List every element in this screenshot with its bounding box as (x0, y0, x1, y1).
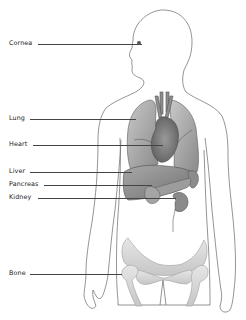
label-pancreas: Pancreas (9, 181, 39, 187)
leader-line-cornea (38, 44, 142, 45)
anatomy-diagram: Cornea Lung Heart Liver Pancreas Kidney … (0, 0, 246, 320)
body-illustration (0, 0, 246, 320)
leader-line-pancreas (44, 185, 152, 186)
leader-line-liver (30, 172, 132, 173)
kidney (173, 192, 188, 211)
label-cornea: Cornea (9, 40, 32, 46)
leader-line-lung (30, 119, 136, 120)
ureter (173, 210, 175, 232)
leader-line-bone (30, 274, 122, 275)
label-heart: Heart (9, 141, 27, 147)
label-bone: Bone (9, 270, 26, 276)
label-liver: Liver (9, 168, 25, 174)
eye-marker-icon (137, 41, 141, 45)
leader-line-kidney (38, 198, 176, 199)
label-kidney: Kidney (9, 194, 31, 200)
leader-line-heart (33, 145, 163, 146)
label-lung: Lung (9, 115, 25, 121)
